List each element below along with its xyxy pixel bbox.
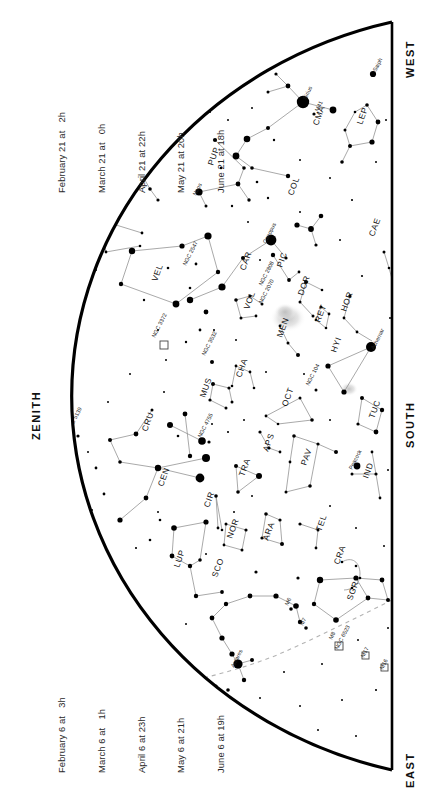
svg-text:M8: M8 <box>328 631 337 641</box>
svg-text:OCT: OCT <box>279 386 295 408</box>
svg-text:SCO: SCO <box>209 557 225 579</box>
svg-text:IND: IND <box>360 461 375 480</box>
svg-text:NGC 2547: NGC 2547 <box>182 240 199 266</box>
svg-text:HYI: HYI <box>328 335 343 353</box>
cardinal-east: EAST <box>404 752 416 788</box>
cardinal-zenith: ZENITH <box>30 391 42 440</box>
svg-text:Sirius: Sirius <box>302 85 314 100</box>
svg-text:CMA: CMA <box>310 104 326 127</box>
svg-text:MUS: MUS <box>197 376 213 399</box>
svg-text:NGC 3372: NGC 3372 <box>151 312 168 338</box>
date-line: May 6 at 21h <box>174 697 187 773</box>
svg-text:CAR: CAR <box>237 250 253 272</box>
svg-text:PAV: PAV <box>298 447 313 467</box>
svg-text:ARA: ARA <box>260 520 276 541</box>
svg-text:VEL: VEL <box>149 263 164 283</box>
date-line: May 21 at 20h <box>174 112 187 193</box>
svg-text:NGC 104: NGC 104 <box>305 363 321 387</box>
svg-text:COL: COL <box>285 175 301 196</box>
svg-text:SGR: SGR <box>344 580 360 602</box>
svg-text:M7: M7 <box>299 617 308 627</box>
svg-text:LUP: LUP <box>171 548 187 568</box>
date-list-bottom: February 6 at 3h March 6 at 1h April 6 a… <box>18 760 105 794</box>
svg-text:DOR: DOR <box>295 274 311 297</box>
svg-text:NOR: NOR <box>224 517 240 540</box>
date-line: April 6 at 23h <box>134 697 147 773</box>
svg-text:CRA: CRA <box>331 544 347 566</box>
star-chart: Sirius M41 Saiph Naos Canopus Achernar P… <box>0 0 436 794</box>
date-line: March 21 at 0h <box>95 112 108 193</box>
date-line: March 6 at 1h <box>95 697 108 773</box>
svg-text:LEP: LEP <box>354 106 369 126</box>
svg-text:CHA: CHA <box>233 357 249 379</box>
svg-text:Achernar: Achernar <box>370 327 386 350</box>
date-line: June 6 at 19h <box>214 697 227 773</box>
date-line: April 21 at 22h <box>134 112 147 193</box>
svg-text:HOR: HOR <box>338 290 354 313</box>
svg-text:TEL: TEL <box>313 513 328 533</box>
svg-text:M6: M6 <box>284 597 293 607</box>
svg-text:CRU: CRU <box>139 411 155 433</box>
cardinal-west: WEST <box>404 40 416 78</box>
svg-text:VOL: VOL <box>241 290 257 311</box>
date-line: February 21 at 2h <box>55 112 68 193</box>
svg-text:CAE: CAE <box>366 216 382 237</box>
svg-text:TRA: TRA <box>236 457 252 478</box>
date-line: February 6 at 3h <box>55 697 68 773</box>
svg-text:PIC: PIC <box>274 250 289 268</box>
svg-text:NGC 4755: NGC 4755 <box>197 412 214 438</box>
date-line: June 21 at 18h <box>214 112 227 193</box>
svg-text:Saiph: Saiph <box>372 57 384 72</box>
cardinal-south: SOUTH <box>404 402 416 449</box>
svg-text:RET: RET <box>312 303 328 324</box>
svg-text:CIR: CIR <box>201 490 216 509</box>
svg-text:NGC 6523: NGC 6523 <box>334 624 351 650</box>
svg-text:NGC 3532: NGC 3532 <box>201 330 218 356</box>
